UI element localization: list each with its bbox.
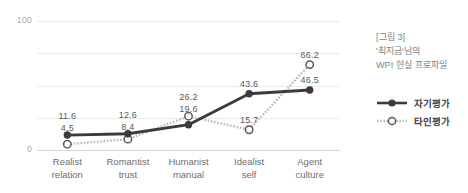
x-axis-category-label: Realistrelation <box>52 155 83 181</box>
value-label: 46.5 <box>301 75 319 85</box>
caption-line-1: [그림 3] <box>376 30 468 44</box>
value-label: 43.6 <box>240 79 258 89</box>
category-label-line: self <box>234 168 264 181</box>
series-layer <box>37 21 340 150</box>
x-axis-category-label: Humanistmanual <box>168 155 208 181</box>
legend-item-self-evaluation[interactable]: 자기평가 <box>376 94 468 112</box>
x-axis-category-label: Idealistself <box>234 155 264 181</box>
y-axis-tick-0: 0 <box>20 144 32 154</box>
wpi-profile-line-chart: 100 0 11.64.512.68.426.219.643.615.766.2… <box>0 0 468 193</box>
value-label: 11.6 <box>58 111 76 121</box>
caption-line-2: '최지금'님의 <box>376 44 468 58</box>
data-point-marker <box>306 61 313 68</box>
side-panel: [그림 3] '최지금'님의 WPI 현실 프로파일 자기평가 타인평가 <box>376 30 468 130</box>
value-label: 12.6 <box>119 110 137 120</box>
legend-label-other-evaluation: 타인평가 <box>414 114 450 128</box>
value-label: 26.2 <box>179 92 197 102</box>
legend-label-self-evaluation: 자기평가 <box>414 96 450 110</box>
category-label-line: Romantist <box>107 155 150 168</box>
value-label: 66.2 <box>301 50 319 60</box>
category-label-line: trust <box>107 168 150 181</box>
value-label: 15.7 <box>240 115 258 125</box>
dotted-line-open-circle-marker-icon <box>376 115 408 127</box>
solid-line-filled-circle-marker-icon <box>376 97 408 109</box>
data-point-marker <box>245 90 252 97</box>
category-label-line: Agent <box>295 155 324 168</box>
category-label-line: culture <box>295 168 324 181</box>
value-label: 8.4 <box>121 122 134 132</box>
data-point-marker <box>64 140 71 147</box>
category-label-line: Humanist <box>168 155 208 168</box>
category-label-line: Realist <box>52 155 83 168</box>
caption-line-3: WPI 현실 프로파일 <box>376 58 468 72</box>
x-axis-category-label: Agentculture <box>295 155 324 181</box>
chart-legend: 자기평가 타인평가 <box>376 94 468 130</box>
legend-item-other-evaluation[interactable]: 타인평가 <box>376 112 468 130</box>
category-label-line: relation <box>52 168 83 181</box>
data-point-marker <box>306 86 313 93</box>
y-axis-tick-100: 100 <box>10 15 32 25</box>
plot-area <box>37 21 340 150</box>
value-label: 19.6 <box>179 104 197 114</box>
data-point-marker <box>185 121 192 128</box>
category-label-line: manual <box>168 168 208 181</box>
x-axis-category-label: Romantisttrust <box>107 155 150 181</box>
data-point-marker <box>245 126 252 133</box>
x-axis-line <box>37 150 340 151</box>
figure-caption: [그림 3] '최지금'님의 WPI 현실 프로파일 <box>376 30 468 72</box>
category-label-line: Idealist <box>234 155 264 168</box>
value-label: 4.5 <box>61 123 74 133</box>
